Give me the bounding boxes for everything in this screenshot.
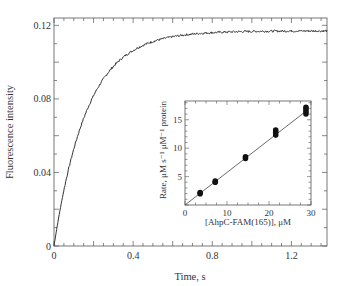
main-y-tick-label: 0.12 bbox=[34, 20, 52, 31]
inset-y-tick-label: 5 bbox=[178, 172, 183, 182]
inset-plot-frame bbox=[185, 101, 311, 205]
inset-y-tick-label: 10 bbox=[173, 143, 183, 153]
main-y-tick-label: 0.04 bbox=[34, 167, 52, 178]
inset-x-tick-label: 0 bbox=[183, 208, 188, 218]
inset-y-axis-label: Rate, μM s⁻¹ μM⁻¹ protein bbox=[158, 101, 168, 199]
main-y-tick-label: 0.08 bbox=[34, 93, 52, 104]
inset-y-tick-label: 15 bbox=[173, 115, 183, 125]
data-point bbox=[303, 104, 309, 110]
data-point bbox=[212, 178, 218, 184]
inset-x-axis-label: [AhpC-FAM(165)], μM bbox=[205, 217, 291, 227]
main-x-tick-label: 0 bbox=[52, 250, 57, 261]
main-x-axis-label: Time, s bbox=[174, 271, 205, 282]
main-x-tick-label: 1.2 bbox=[285, 250, 298, 261]
main-y-axis-label: Fluorescence intensity bbox=[4, 84, 15, 179]
main-x-tick-label: 0.4 bbox=[127, 250, 140, 261]
main-y-tick-label: 0 bbox=[46, 241, 51, 252]
main-x-tick-label: 0.8 bbox=[206, 250, 219, 261]
inset-x-tick-label: 30 bbox=[307, 208, 317, 218]
data-point bbox=[243, 154, 249, 160]
chart: 00.40.81.200.040.080.12 Time, s Fluoresc… bbox=[0, 0, 343, 286]
data-point bbox=[197, 190, 203, 196]
data-point bbox=[273, 127, 279, 133]
